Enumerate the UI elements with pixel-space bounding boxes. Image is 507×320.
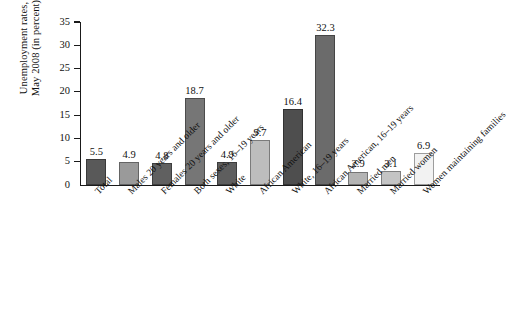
bar-value-label: 32.3 xyxy=(307,22,343,33)
bar-value-label: 5.5 xyxy=(78,146,114,157)
bar-value-label: 18.7 xyxy=(177,85,213,96)
bar-value-label: 4.9 xyxy=(111,149,147,160)
bar-value-label: 16.4 xyxy=(275,96,311,107)
